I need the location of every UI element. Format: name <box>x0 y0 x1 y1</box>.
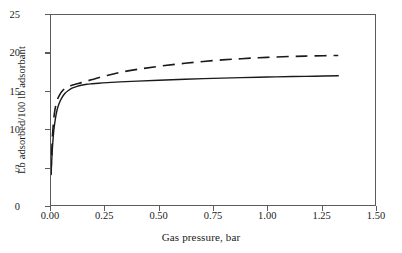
y-axis-title: Lb adsorbed/100 lb adsorbant <box>16 46 27 174</box>
xtick-label: 1.25 <box>312 211 330 222</box>
xtick-label: 0.75 <box>204 211 222 222</box>
xtick-label: 0.00 <box>41 211 59 222</box>
chart-figure: 25 20 15 10 5 0 0.00 0.25 0.50 0.75 1.00… <box>0 0 402 253</box>
xtick-label: 0.50 <box>149 211 167 222</box>
plot-area <box>50 14 376 206</box>
y-axis-title-wrap: Lb adsorbed/100 lb adsorbant <box>12 14 30 206</box>
series-line-dashed <box>51 55 338 174</box>
xtick-label: 1.00 <box>258 211 276 222</box>
chart-lines <box>51 15 375 205</box>
x-axis-title: Gas pressure, bar <box>0 231 402 243</box>
xtick-label: 0.25 <box>95 211 113 222</box>
series-line-solid <box>51 76 338 175</box>
xtick-label: 1.50 <box>367 211 385 222</box>
